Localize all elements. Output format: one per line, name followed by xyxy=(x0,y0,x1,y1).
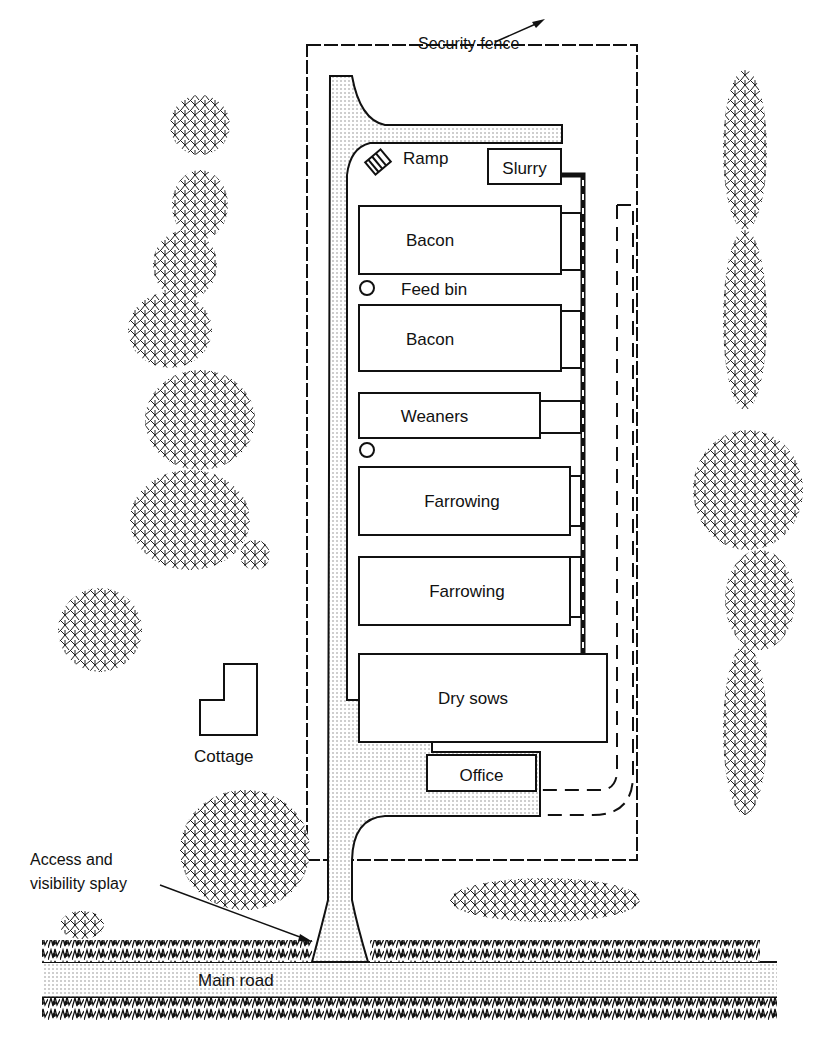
access-splay-label: Access and xyxy=(30,852,113,868)
shrub xyxy=(60,911,104,939)
main-road xyxy=(42,962,777,998)
ramp-label: Ramp xyxy=(403,150,448,167)
tree-belt-west xyxy=(58,95,270,672)
tree-belt-east xyxy=(693,70,803,815)
building-label: Farrowing xyxy=(355,492,569,512)
shrub xyxy=(450,878,640,922)
office-label: Office xyxy=(428,766,535,786)
building-weaners: Weaners xyxy=(358,392,541,439)
building-label: Weaners xyxy=(330,407,539,427)
ramp-icon xyxy=(365,149,391,174)
building-label: Bacon xyxy=(300,330,560,350)
building-farrowing-2: Farrowing xyxy=(358,556,571,626)
security-fence-label: Security fence xyxy=(418,36,519,52)
building-label: Dry sows xyxy=(340,689,606,709)
feed-bin-label: Feed bin xyxy=(401,281,467,298)
hedge-south xyxy=(42,998,777,1020)
hedge-north-east xyxy=(370,940,760,962)
site-plan: Slurry Bacon Bacon Weaners Farrowing Far… xyxy=(0,0,840,1040)
building-bacon-2: Bacon xyxy=(358,304,562,372)
building-dry-sows: Dry sows xyxy=(358,653,608,743)
slurry-label: Slurry xyxy=(489,159,560,179)
office-building: Office xyxy=(426,754,537,792)
building-farrowing-1: Farrowing xyxy=(358,466,571,536)
access-splay-label-2: visibility splay xyxy=(30,876,127,892)
shrub xyxy=(180,790,310,910)
cottage-outline xyxy=(200,664,257,735)
building-label: Farrowing xyxy=(365,582,569,602)
slurry-store: Slurry xyxy=(487,148,562,185)
feed-bin-icon xyxy=(360,281,374,295)
building-bacon-1: Bacon xyxy=(358,205,562,275)
feed-bin-icon xyxy=(360,443,374,457)
hedge-north-west xyxy=(42,940,312,962)
cottage-label: Cottage xyxy=(194,748,254,765)
building-label: Bacon xyxy=(300,231,560,251)
main-road-label: Main road xyxy=(198,972,274,989)
